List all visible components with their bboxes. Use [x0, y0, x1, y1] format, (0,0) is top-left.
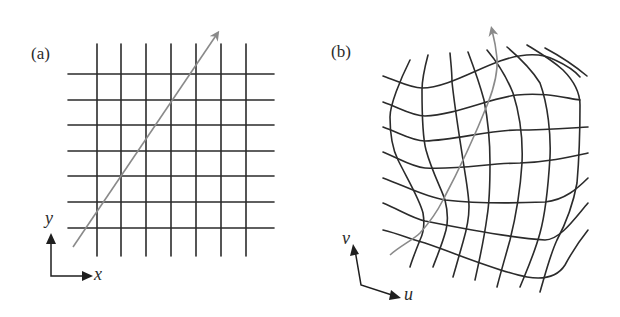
u-axis-label: u	[404, 284, 413, 305]
panel-b-horizontal-curves	[383, 55, 588, 278]
y-axis-label: y	[45, 208, 53, 229]
panel-b-vertical-curves	[390, 45, 587, 292]
figure-canvas	[0, 0, 620, 317]
panel-b-label: (b)	[331, 42, 351, 62]
panel-a-label: (a)	[31, 44, 50, 64]
panel-b-trajectory-arrow	[390, 30, 497, 255]
panel-a-grid	[68, 44, 274, 256]
x-axis-arrowhead-icon	[82, 271, 93, 281]
panel-a-axes	[46, 233, 93, 281]
u-axis-arrowhead-icon	[389, 290, 401, 300]
y-axis-arrowhead-icon	[46, 233, 56, 244]
v-axis-arrowhead-icon	[350, 244, 359, 256]
panel-b-grid	[383, 45, 588, 292]
x-axis-label: x	[94, 264, 102, 285]
panel-a-vertical-lines	[97, 44, 246, 256]
v-axis-label: v	[342, 228, 350, 249]
